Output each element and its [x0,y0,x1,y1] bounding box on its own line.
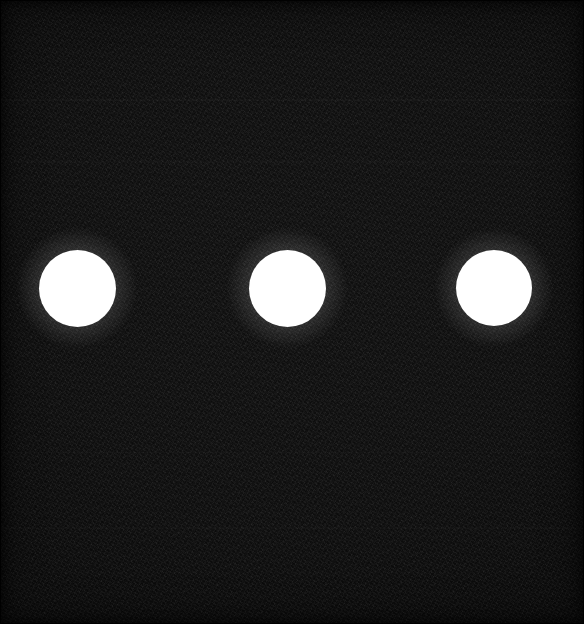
marker-2 [249,250,326,327]
marker-3 [456,250,532,326]
scene-canvas [0,0,584,624]
marker-1 [39,250,116,327]
